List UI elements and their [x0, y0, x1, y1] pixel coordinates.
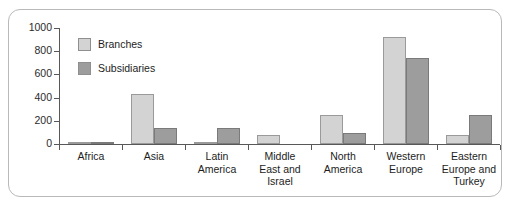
y-axis-tick-label: 1000 [14, 22, 52, 33]
x-axis-line [59, 144, 500, 145]
y-axis-tick-label-text: 800 [18, 45, 52, 56]
y-axis-tick-label-text: 1000 [18, 22, 52, 33]
bar-subsidiaries [154, 128, 177, 144]
bar-subsidiaries [91, 142, 114, 144]
legend-label-branches: Branches [98, 38, 142, 50]
bar-branches [68, 142, 91, 144]
y-axis-line [59, 28, 60, 145]
bar-branches [320, 115, 343, 144]
y-axis-tick-label: 600 [14, 68, 52, 79]
bar-subsidiaries [217, 128, 240, 144]
plot-area: 02004006008001000 AfricaAsiaLatin Americ… [0, 0, 514, 209]
bar-subsidiaries [343, 133, 366, 144]
y-axis-tick-label-text: 600 [18, 68, 52, 79]
bar-branches [383, 37, 406, 144]
y-axis-tick [54, 28, 60, 29]
bar-branches [446, 135, 469, 144]
y-axis-tick-label: 400 [14, 92, 52, 103]
y-axis-tick-label: 200 [14, 115, 52, 126]
y-axis-tick-label-text: 400 [18, 92, 52, 103]
y-axis-tick [54, 98, 60, 99]
y-axis-tick [54, 51, 60, 52]
bar-branches [131, 94, 154, 144]
chart-legend: Branches Subsidiaries [78, 34, 155, 82]
bar-branches [194, 142, 217, 144]
bar-subsidiaries [469, 115, 492, 144]
legend-label-subsidiaries: Subsidiaries [98, 62, 155, 74]
legend-item-subsidiaries: Subsidiaries [78, 58, 155, 78]
y-axis-tick-label-text: 0 [18, 138, 52, 149]
y-axis-tick [54, 74, 60, 75]
bar-subsidiaries [406, 58, 429, 144]
y-axis-tick-label: 800 [14, 45, 52, 56]
y-axis-tick [54, 121, 60, 122]
chart-figure: 02004006008001000 AfricaAsiaLatin Americ… [0, 0, 514, 209]
category-label: Eastern Europe and Turkey [425, 150, 513, 188]
y-axis-tick-label-text: 200 [18, 115, 52, 126]
legend-swatch-branches-icon [78, 38, 91, 51]
legend-swatch-subsidiaries-icon [78, 62, 91, 75]
y-axis-tick-label: 0 [14, 138, 52, 149]
bar-branches [257, 135, 280, 144]
legend-item-branches: Branches [78, 34, 155, 54]
